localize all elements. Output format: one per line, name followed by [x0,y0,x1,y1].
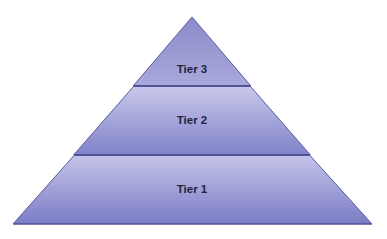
tier-2: Tier 2 [74,87,310,155]
tier-3: Tier 3 [134,17,251,86]
tier-3-label: Tier 3 [177,63,207,75]
tier-2-label: Tier 2 [177,114,207,126]
tier-1: Tier 1 [13,156,372,225]
pyramid-diagram: Tier 3 Tier 2 Tier 1 [0,0,387,239]
tier-1-label: Tier 1 [177,183,208,195]
tier-3-shape [134,17,251,86]
